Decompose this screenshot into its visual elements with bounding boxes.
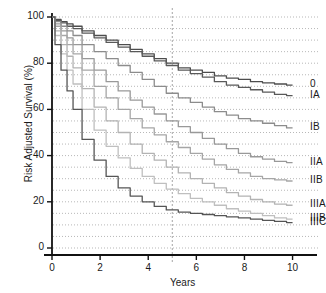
y-tick-label: 60 — [8, 102, 44, 113]
series-label-ib: IB — [310, 121, 320, 132]
series-label-0: 0 — [310, 78, 316, 89]
survival-chart: Risk Adjusted Survival (%) Years 0204060… — [0, 0, 326, 293]
series-label-iib: IIB — [310, 174, 323, 185]
curve-iiib — [52, 17, 293, 219]
curve-0 — [52, 17, 293, 85]
series-label-ia: IA — [310, 89, 320, 100]
y-tick-label: 0 — [8, 241, 44, 252]
series-label-iiic: IIIC — [310, 216, 326, 227]
series-label-iia: IIA — [310, 156, 323, 167]
x-tick-label: 10 — [278, 262, 308, 273]
series-label-iiia: IIIA — [310, 198, 326, 209]
x-tick-label: 6 — [181, 262, 211, 273]
x-tick-label: 8 — [229, 262, 259, 273]
y-tick-label: 100 — [8, 10, 44, 21]
x-tick-label: 4 — [133, 262, 163, 273]
y-tick-label: 20 — [8, 195, 44, 206]
y-axis-title: Risk Adjusted Survival (%) — [23, 44, 34, 204]
axis-lines — [44, 13, 317, 260]
x-tick-label: 0 — [37, 262, 67, 273]
curve-iiic — [52, 17, 293, 223]
x-axis-title: Years — [170, 277, 195, 288]
series-curves — [52, 17, 293, 223]
y-tick-label: 80 — [8, 56, 44, 67]
x-tick-label: 2 — [85, 262, 115, 273]
plot-area — [0, 0, 326, 293]
minor-gridlines — [53, 17, 319, 248]
y-tick-label: 40 — [8, 149, 44, 160]
